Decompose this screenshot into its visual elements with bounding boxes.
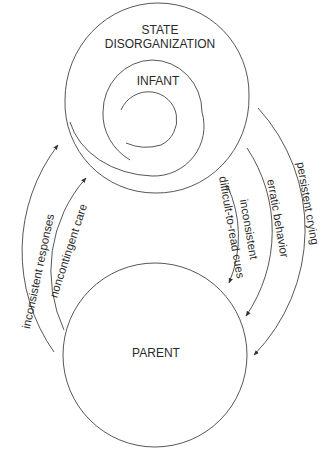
disorganization-label: DISORGANIZATION [105, 37, 215, 51]
edge-persistent-crying: persistent crying [254, 108, 321, 355]
parent-label: PARENT [132, 346, 180, 360]
difficult-to-read-cues-label: difficult-to-read cues [217, 175, 247, 279]
persistent-crying-label: persistent crying [295, 161, 321, 246]
infant-label: INFANT [137, 74, 180, 88]
edge-noncontingent-care: noncontingent care [47, 178, 89, 330]
infant-parent-cycle-diagram: STATE DISORGANIZATION INFANT PARENT inco… [0, 0, 323, 454]
state-label: STATE [142, 23, 179, 37]
edge-difficult-cues: inconsistent difficult-to-read cues [217, 175, 260, 283]
parent-node: PARENT [63, 263, 247, 447]
infant-state-spiral: STATE DISORGANIZATION INFANT [65, 3, 249, 193]
erratic-behavior-label: erratic behavior [265, 178, 291, 258]
